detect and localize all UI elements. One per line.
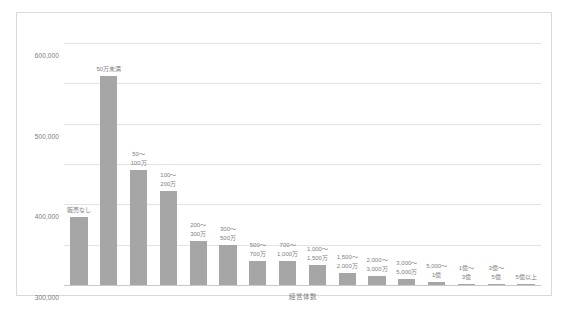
bar[interactable] xyxy=(190,241,207,285)
bar-category-label-line2: 1億 xyxy=(426,271,447,280)
bar-category-label-line1: 1億〜 xyxy=(459,265,474,271)
bar-category-label-line2: 1,000万 xyxy=(277,250,298,259)
bar[interactable] xyxy=(70,217,87,285)
bar-slot: 3,000〜5,000万 xyxy=(392,43,422,285)
bar-category-label: 300〜500万 xyxy=(220,225,236,243)
bar[interactable] xyxy=(100,76,117,285)
bar-category-label-line1: 2,000〜 xyxy=(367,257,388,263)
bar-category-label: 販売なし xyxy=(67,206,91,215)
bar-category-label-line1: 1,500〜 xyxy=(337,254,358,260)
bar-category-label-line1: 販売なし xyxy=(67,207,91,213)
bar-category-label: 500〜700万 xyxy=(250,241,266,259)
bar-category-label-line2: 3,000万 xyxy=(367,265,388,274)
bar-category-label-line2: 500万 xyxy=(220,234,236,243)
y-axis-tick-label: 500,000 xyxy=(35,132,59,139)
bar-slot: 5,000〜1億 xyxy=(422,43,452,285)
bar-slot: 50万未満 xyxy=(94,43,124,285)
bar[interactable] xyxy=(428,282,445,285)
axis-baseline: 0 xyxy=(64,285,541,286)
bar-slot: 5億以上 xyxy=(511,43,541,285)
bar-category-label: 5億以上 xyxy=(515,273,536,282)
bar[interactable] xyxy=(279,261,296,285)
bar-category-label-line1: 5,000〜 xyxy=(426,263,447,269)
bar-category-label-line2: 300万 xyxy=(190,230,206,239)
bar-slot: 200〜300万 xyxy=(183,43,213,285)
bar-category-label: 2,000〜3,000万 xyxy=(367,256,388,274)
bar-slot: 1,500〜2,000万 xyxy=(332,43,362,285)
bar-slot: 300〜500万 xyxy=(213,43,243,285)
bar[interactable] xyxy=(517,284,534,285)
bar-category-label-line1: 5億以上 xyxy=(515,274,536,280)
bar-slot: 3億〜5億 xyxy=(481,43,511,285)
bar-category-label-line1: 200〜 xyxy=(190,222,206,228)
bar[interactable] xyxy=(219,245,236,285)
bar[interactable] xyxy=(398,279,415,285)
bar-category-label-line2: 700万 xyxy=(250,250,266,259)
bar-category-label: 3億〜5億 xyxy=(489,264,504,282)
bar[interactable] xyxy=(160,191,177,285)
bar-slot: 50〜100万 xyxy=(124,43,154,285)
y-axis-tick-label: 300,000 xyxy=(35,294,59,301)
bar-category-label-line2: 3億 xyxy=(459,273,474,282)
bar-slot: 販売なし xyxy=(64,43,94,285)
bar-category-label-line2: 2,000万 xyxy=(337,262,358,271)
bar-category-label: 1,000〜1,500万 xyxy=(307,245,328,263)
bar-category-label-line1: 1,000〜 xyxy=(307,246,328,252)
bar-category-label-line1: 700〜 xyxy=(280,242,296,248)
chart-frame: 600,000500,000400,000300,000200,000100,0… xyxy=(16,12,552,296)
bar-category-label-line1: 100〜 xyxy=(160,172,176,178)
bar-slot: 100〜200万 xyxy=(153,43,183,285)
bar-slot: 700〜1,000万 xyxy=(273,43,303,285)
bar-category-label-line2: 5,000万 xyxy=(396,268,417,277)
bar-category-label-line2: 5億 xyxy=(489,273,504,282)
y-axis-tick-label: 400,000 xyxy=(35,213,59,220)
plot-area: 600,000500,000400,000300,000200,000100,0… xyxy=(64,31,541,285)
bar-category-label: 50〜100万 xyxy=(131,150,147,168)
bar[interactable] xyxy=(458,284,475,285)
bar[interactable] xyxy=(339,273,356,285)
bar-category-label: 100〜200万 xyxy=(160,171,176,189)
bar-category-label: 700〜1,000万 xyxy=(277,241,298,259)
bar-category-label-line1: 300〜 xyxy=(220,226,236,232)
bar-category-label-line2: 1,500万 xyxy=(307,254,328,263)
bar[interactable] xyxy=(368,276,385,285)
bar-category-label-line2: 200万 xyxy=(160,180,176,189)
bar-slot: 1,000〜1,500万 xyxy=(303,43,333,285)
bar-category-label: 200〜300万 xyxy=(190,221,206,239)
bar-category-label-line1: 50万未満 xyxy=(96,66,121,72)
bar-category-label: 3,000〜5,000万 xyxy=(396,259,417,277)
bar-slot: 500〜700万 xyxy=(243,43,273,285)
bar-slot: 1億〜3億 xyxy=(452,43,482,285)
bar-category-label-line1: 50〜 xyxy=(132,151,145,157)
bar[interactable] xyxy=(249,261,266,285)
bar-slot: 2,000〜3,000万 xyxy=(362,43,392,285)
bar[interactable] xyxy=(130,170,147,285)
bar-category-label-line1: 500〜 xyxy=(250,242,266,248)
bar-category-label-line1: 3億〜 xyxy=(489,265,504,271)
bar-category-label: 5,000〜1億 xyxy=(426,262,447,280)
bar-category-label: 50万未満 xyxy=(96,65,121,74)
bar-category-label-line2: 100万 xyxy=(131,159,147,168)
bar[interactable] xyxy=(309,265,326,285)
x-axis-title: 経営体数 xyxy=(64,291,541,301)
bar-category-label: 1億〜3億 xyxy=(459,264,474,282)
bar-category-label-line1: 3,000〜 xyxy=(396,260,417,266)
y-axis-tick-label: 600,000 xyxy=(35,52,59,59)
bar[interactable] xyxy=(488,284,505,285)
bar-category-label: 1,500〜2,000万 xyxy=(337,253,358,271)
bar-series: 販売なし50万未満50〜100万100〜200万200〜300万300〜500万… xyxy=(64,43,541,285)
